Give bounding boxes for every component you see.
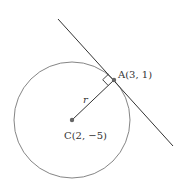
radius-label: r: [83, 94, 89, 105]
point-a: [112, 78, 116, 82]
point-c: [70, 118, 74, 122]
point-c-label: C(2, −5): [64, 130, 107, 141]
radius-segment: [72, 80, 114, 120]
right-angle-marker: [103, 74, 109, 85]
point-a-label: A(3, 1): [117, 69, 152, 80]
diagram-canvas: A(3, 1) C(2, −5) r: [0, 0, 181, 193]
tangent-line: [58, 19, 173, 146]
